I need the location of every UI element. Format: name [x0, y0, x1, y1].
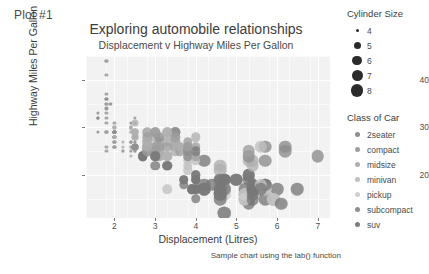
- scatter-point: [183, 137, 193, 147]
- scatter-point: [259, 155, 272, 168]
- chart-subtitle: Displacement v Highway Miles Per Gallon: [62, 39, 330, 51]
- x-axis-tick-label: 5: [234, 221, 239, 231]
- scatter-point: [121, 145, 124, 148]
- legend-size-item[interactable]: 4: [347, 23, 429, 38]
- scatter-point: [191, 147, 201, 157]
- scatter-point: [230, 174, 243, 187]
- scatter-point: [214, 193, 227, 206]
- scatter-point: [105, 131, 108, 134]
- legend-class-label: minivan: [367, 175, 396, 185]
- chart-title: Exploring automobile relationships: [62, 21, 330, 37]
- scatter-point: [150, 151, 160, 161]
- chart-caption: Sample chart using the lab() function: [0, 251, 341, 260]
- scatter-point: [105, 150, 108, 153]
- scatter-point: [183, 151, 193, 161]
- legend-class-item[interactable]: compact: [347, 142, 429, 157]
- plot-panel: [86, 56, 330, 218]
- scatter-point: [150, 127, 160, 137]
- scatter-point: [312, 150, 325, 163]
- legend-size-label: 6: [367, 56, 372, 66]
- legend-class-label: 2seater: [367, 130, 395, 140]
- scatter-point: [131, 119, 138, 126]
- circle-icon: [355, 192, 360, 197]
- scatter-point: [97, 112, 100, 115]
- scatter-point: [163, 151, 173, 161]
- legend-class-item[interactable]: suv: [347, 217, 429, 232]
- legend-size-key: [347, 70, 367, 81]
- x-axis-tick-mark: [155, 218, 156, 221]
- legend-size-item[interactable]: 6: [347, 53, 429, 68]
- legend-class-key: [347, 207, 367, 212]
- scatter-point: [191, 170, 201, 180]
- circle-icon: [355, 177, 360, 182]
- scatter-point: [105, 116, 108, 119]
- x-axis-tick-label: 2: [112, 221, 117, 231]
- legend-class-title: Class of Car: [347, 112, 429, 123]
- x-axis-tick-mark: [196, 218, 197, 221]
- x-axis-tick-mark: [318, 218, 319, 221]
- x-axis-tick-mark: [236, 218, 237, 221]
- scatter-point: [171, 132, 181, 142]
- gridline-minor-horizontal: [86, 56, 330, 57]
- scatter-point: [191, 185, 201, 195]
- scatter-point: [105, 102, 108, 105]
- scatter-point: [163, 185, 173, 195]
- scatter-point: [113, 135, 116, 138]
- legend-class-key: [347, 147, 367, 152]
- y-axis-tick-mark: [82, 127, 85, 128]
- scatter-point: [113, 121, 116, 124]
- scatter-point: [191, 132, 201, 142]
- legend-cylinder-size: Cylinder Size 45678: [347, 8, 429, 98]
- circle-icon: [352, 56, 362, 66]
- scatter-point: [214, 159, 227, 172]
- scatter-point: [105, 97, 108, 100]
- scatter-point: [191, 194, 201, 204]
- legend-class-item[interactable]: pickup: [347, 187, 429, 202]
- x-axis-label: Displacement (Litres): [86, 233, 330, 245]
- circle-icon: [352, 70, 363, 81]
- legend-class-item[interactable]: minivan: [347, 172, 429, 187]
- legend-class-label: subcompact: [367, 205, 413, 215]
- x-axis-tick-label: 4: [193, 221, 198, 231]
- legend-class-label: midsize: [367, 160, 396, 170]
- scatter-point: [279, 145, 292, 158]
- scatter-point: [113, 145, 116, 148]
- legend-class-of-car: Class of Car 2seatercompactmidsizeminiva…: [347, 112, 429, 232]
- legend-class-key: [347, 192, 367, 197]
- legend-size-label: 4: [367, 26, 372, 36]
- scatter-point: [105, 73, 108, 76]
- scatter-point: [109, 102, 112, 105]
- gridline-minor-horizontal: [86, 199, 330, 200]
- legend-class-label: suv: [367, 220, 380, 230]
- gridline-major-horizontal: [86, 80, 330, 81]
- legend-class-item[interactable]: subcompact: [347, 202, 429, 217]
- scatter-point: [113, 131, 116, 134]
- legend-class-key: [347, 222, 367, 227]
- legend-size-item[interactable]: 5: [347, 38, 429, 53]
- legend-container: Cylinder Size 45678 Class of Car 2seater…: [347, 8, 429, 232]
- legend-class-label: pickup: [367, 190, 392, 200]
- legend-class-item[interactable]: 2seater: [347, 127, 429, 142]
- circle-icon: [355, 147, 360, 152]
- gridline-major-horizontal: [86, 175, 330, 176]
- circle-icon: [355, 132, 360, 137]
- legend-size-item[interactable]: 7: [347, 68, 429, 83]
- legend-size-key: [347, 42, 367, 49]
- legend-class-key: [347, 162, 367, 167]
- scatter-point: [97, 116, 100, 119]
- legend-size-item[interactable]: 8: [347, 83, 429, 98]
- scatter-point: [121, 140, 124, 143]
- scatter-point: [179, 175, 189, 185]
- scatter-point: [133, 150, 136, 153]
- circle-icon: [355, 207, 360, 212]
- scatter-point: [163, 127, 173, 137]
- legend-class-item[interactable]: midsize: [347, 157, 429, 172]
- scatter-point: [105, 59, 108, 62]
- circle-icon: [356, 29, 359, 32]
- scatter-point: [129, 150, 132, 153]
- legend-size-key: [347, 84, 367, 97]
- legend-size-key: [347, 56, 367, 66]
- scatter-point: [242, 145, 255, 158]
- legend-class-key: [347, 132, 367, 137]
- scatter-point: [291, 183, 304, 196]
